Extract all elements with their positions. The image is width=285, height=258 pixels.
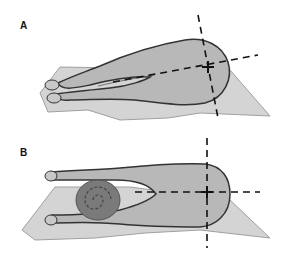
recumbent-animal-illustration-b — [0, 130, 285, 258]
recumbent-animal-illustration-a — [0, 0, 285, 130]
rolled-towel — [76, 180, 120, 220]
panel-b: B — [0, 130, 285, 258]
panel-a: A — [0, 0, 285, 130]
